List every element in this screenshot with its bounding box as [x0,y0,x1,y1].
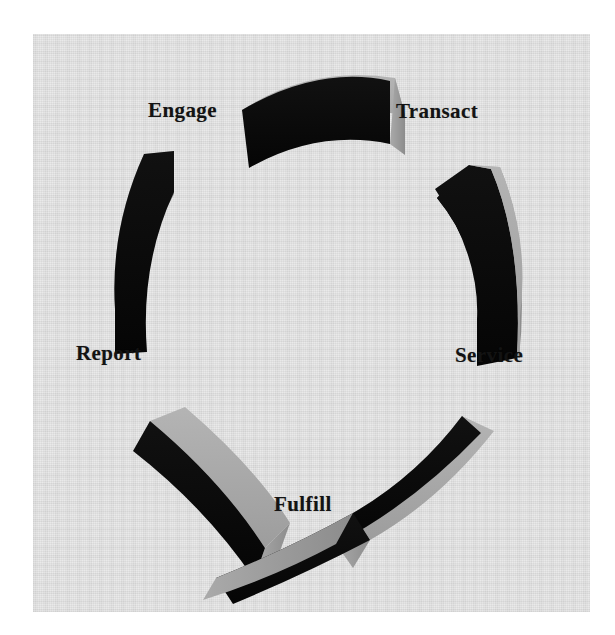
segment-block-top[interactable] [242,75,405,168]
segment-label-transact: Transact [396,101,478,122]
segment-label-engage: Engage [148,100,217,121]
segment-block-right[interactable] [433,165,523,366]
segment-front-face [114,151,174,354]
cycle-wheel-graphic [33,34,590,612]
segment-front-face [242,77,390,168]
segment-label-service: Service [455,345,523,366]
segment-label-fulfill: Fulfill [274,494,332,515]
segment-block-bottom-left[interactable] [133,407,290,579]
segment-label-report: Report [76,343,141,364]
cycle-diagram-figure: Engage Transact Service Fulfill Report [0,0,615,635]
segment-block-left[interactable] [114,151,174,354]
